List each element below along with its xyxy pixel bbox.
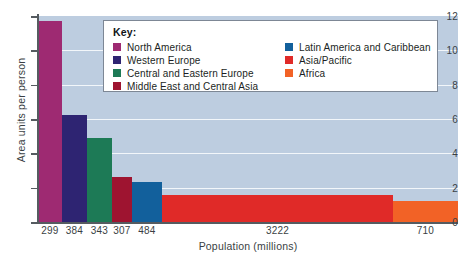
legend-label: Western Europe [127,55,200,66]
x-tick-label-4: 484 [138,225,155,236]
legend-swatch-icon [285,69,293,77]
bar-chart: 024681012 2993843433074843222710 Area un… [0,0,458,260]
legend-label: Asia/Pacific [299,55,352,66]
legend-label: Africa [299,68,325,79]
x-tick-label-6: 710 [417,225,434,236]
legend-label: Latin America and Caribbean [299,42,431,53]
legend-title: Key: [113,26,437,38]
y-tick-2 [31,188,38,190]
legend-swatch-icon [285,43,293,51]
bar-2 [87,138,112,222]
legend-swatch-icon [285,56,293,64]
legend-swatch-icon [113,56,121,64]
legend-swatch-icon [113,82,121,90]
bar-3 [112,177,132,222]
y-tick-label-6: 6 [428,114,458,125]
legend-item-left-1: Western Europe [113,54,258,67]
y-tick-8 [31,85,38,87]
y-tick-0 [31,222,38,224]
y-tick-12 [31,16,38,18]
y-tick-6 [31,119,38,121]
bar-5 [162,195,393,222]
legend-label: Central and Eastern Europe [127,68,254,79]
legend-column-right: Latin America and CaribbeanAsia/PacificA… [285,41,431,80]
legend-label: North America [127,42,192,53]
bar-4 [132,182,162,222]
y-tick-label-2: 2 [428,182,458,193]
x-tick-label-3: 307 [113,225,130,236]
bar-1 [62,115,87,222]
legend: Key: North AmericaWestern EuropeCentral … [103,20,438,92]
legend-item-left-0: North America [113,41,258,54]
y-tick-4 [31,153,38,155]
legend-item-right-0: Latin America and Caribbean [285,41,431,54]
x-axis-line [37,222,458,224]
bar-0 [38,21,62,222]
legend-item-left-3: Middle East and Central Asia [113,80,258,93]
legend-swatch-icon [113,43,121,51]
x-tick-label-1: 384 [66,225,83,236]
legend-item-right-1: Asia/Pacific [285,54,431,67]
y-tick-label-4: 4 [428,148,458,159]
y-axis-title: Area units per person [15,40,27,180]
x-axis-title: Population (millions) [38,240,458,252]
x-tick-label-0: 299 [41,225,58,236]
legend-label: Middle East and Central Asia [127,81,258,92]
y-tick-10 [31,50,38,52]
x-tick-label-5: 3222 [266,225,289,236]
legend-item-left-2: Central and Eastern Europe [113,67,258,80]
legend-swatch-icon [113,69,121,77]
gridline-6 [38,119,458,120]
x-tick-label-2: 343 [91,225,108,236]
legend-column-left: North AmericaWestern EuropeCentral and E… [113,41,258,93]
legend-item-right-2: Africa [285,67,431,80]
